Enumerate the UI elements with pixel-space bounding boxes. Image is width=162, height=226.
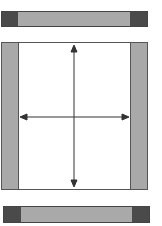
arrows-overlay [0, 0, 162, 226]
vertical-double-arrow-icon [71, 45, 77, 187]
